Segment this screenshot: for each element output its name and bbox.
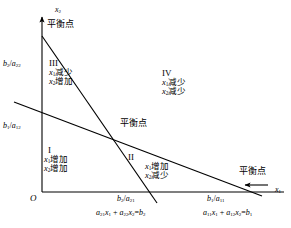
diagram-canvas [0,0,291,228]
equilibrium-point-right: 平衡点 [239,167,266,176]
equilibrium-point-center: 平衡点 [120,119,147,128]
intercept-y-lower: b1/a12 [3,122,21,130]
region-II-numeral: II [128,152,134,162]
region-IV: IV x1减少 x2减少 [162,69,186,96]
region-II: x1增加 x2减少 [145,162,169,180]
intercept-x-left: b2/a21 [117,195,135,203]
x-axis-label: x1 [275,186,281,194]
equation-line-1: a11x1 + a12x2=b1 [203,209,252,217]
region-I: I x1增加 x2增加 [44,146,68,173]
region-II-numeral-wrap: II [128,147,134,164]
phase-plane-figure: x2 x1 O 平衡点 平衡点 平衡点 b2/a22 b1/a12 b2/a21… [0,0,291,228]
equilibrium-point-top: 平衡点 [47,20,74,29]
region-III: III x1减少 x2增加 [49,59,73,86]
region-II-line2: x2减少 [145,171,169,180]
intercept-x-right: b1/a11 [207,195,225,203]
origin-label: O [30,194,37,203]
y-axis-label: x2 [55,6,61,14]
equation-line-2: a21x1 + a22x2=b2 [96,209,146,217]
intercept-y-upper: b2/a22 [3,60,21,68]
region-III-line2: x2增加 [49,77,73,86]
region-I-line2: x2增加 [44,164,68,173]
region-IV-line2: x2减少 [162,87,186,96]
